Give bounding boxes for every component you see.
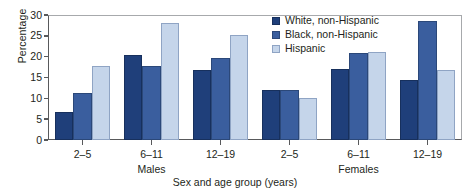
bar-group (55, 15, 110, 140)
x-axis-group-label: Females (338, 163, 378, 175)
x-axis-tick-label: 6–11 (347, 148, 370, 160)
bar-group-bars (400, 15, 455, 140)
bar (331, 69, 349, 140)
bar-group-bars (124, 15, 179, 140)
legend-swatch-icon (272, 31, 280, 39)
bar (368, 52, 386, 140)
bar (193, 70, 211, 140)
bar (400, 80, 418, 140)
x-axis-tick-mark (289, 140, 290, 145)
x-axis-tick-mark (151, 140, 152, 145)
bar (230, 35, 248, 140)
x-axis-tick-mark (358, 140, 359, 145)
bar (142, 66, 160, 140)
bar (211, 58, 229, 140)
y-axis-tick-label: 15 (14, 71, 42, 83)
bar-group-bars (193, 15, 248, 140)
legend: White, non-Hispanic Black, non-Hispanic … (272, 14, 379, 56)
x-axis-title: Sex and age group (years) (0, 176, 470, 188)
bar (280, 90, 298, 140)
bar (161, 23, 179, 140)
bar-chart: Percentage 051015202530 2–56–1112–192–56… (0, 0, 470, 191)
bar (349, 53, 367, 140)
bar (92, 66, 110, 140)
legend-swatch-icon (272, 17, 280, 25)
x-axis-tick-label: 2–5 (74, 148, 92, 160)
legend-item: Black, non-Hispanic (272, 28, 379, 41)
bar (418, 21, 436, 140)
x-axis-tick-mark (220, 140, 221, 145)
legend-item-label: Hispanic (285, 43, 325, 54)
legend-item: White, non-Hispanic (272, 14, 379, 27)
x-axis-tick-mark (82, 140, 83, 145)
y-axis-tick-label: 10 (14, 92, 42, 104)
y-axis-tick-label: 5 (14, 113, 42, 125)
bar-group (124, 15, 179, 140)
plot-area: 051015202530 (48, 15, 462, 140)
y-axis-tick-label: 0 (14, 134, 42, 146)
bar-group (193, 15, 248, 140)
legend-item: Hispanic (272, 42, 379, 55)
x-axis-tick-label: 12–19 (413, 148, 442, 160)
bar (299, 98, 317, 140)
bar (437, 70, 455, 140)
bar-group-bars (55, 15, 110, 140)
bar-group (400, 15, 455, 140)
legend-swatch-icon (272, 45, 280, 53)
legend-item-label: White, non-Hispanic (285, 15, 379, 26)
y-axis-tick-label: 20 (14, 50, 42, 62)
x-axis-tick-label: 2–5 (281, 148, 299, 160)
x-axis-tick-label: 6–11 (140, 148, 163, 160)
legend-item-label: Black, non-Hispanic (285, 29, 378, 40)
x-axis-tick-mark (427, 140, 428, 145)
bar (73, 93, 91, 140)
y-axis-tick-label: 25 (14, 29, 42, 41)
y-axis-tick-label: 30 (14, 9, 42, 21)
bar-groups (48, 15, 462, 140)
x-axis-group-label: Males (137, 163, 165, 175)
bar (124, 55, 142, 140)
bar (262, 90, 280, 140)
bar (55, 112, 73, 140)
x-axis-tick-label: 12–19 (206, 148, 235, 160)
